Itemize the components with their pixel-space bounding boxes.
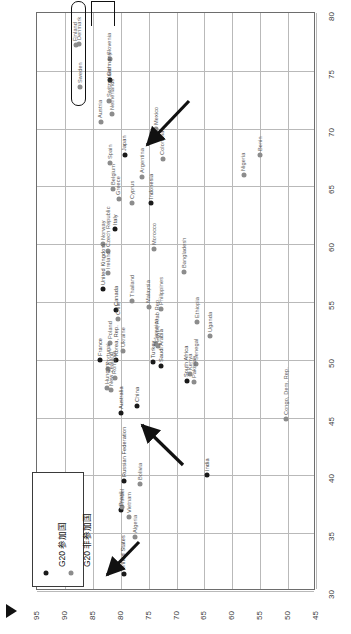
point-label: Netherlands (109, 78, 115, 109)
axis-tick-right: 35 (327, 532, 336, 541)
point-label: Thailand (129, 275, 135, 297)
data-point (241, 172, 246, 177)
gridline-horizontal (37, 186, 314, 187)
gridline-vertical (93, 13, 94, 589)
axis-tick-bottom: 90 (60, 611, 69, 620)
axis-tick-right: 80 (327, 12, 336, 21)
data-point (139, 175, 144, 180)
point-label: Pakistan (191, 356, 197, 378)
data-point (106, 271, 111, 276)
axis-tick-right: 70 (327, 128, 336, 137)
axis-tick-bottom: 65 (199, 611, 208, 620)
point-label: France (97, 338, 103, 356)
gridline-horizontal (37, 302, 314, 303)
gridline-horizontal (37, 244, 314, 245)
data-point (115, 317, 120, 322)
point-label: Ireland (105, 251, 111, 269)
axis-tick-right: 30 (327, 590, 336, 599)
gridline-horizontal (37, 360, 314, 361)
point-label: Ethiopia (194, 297, 200, 318)
data-point (109, 111, 114, 116)
data-point (108, 387, 113, 392)
point-label: Morocco (151, 223, 157, 245)
point-label: New Zealand (108, 352, 114, 386)
data-point (120, 348, 125, 353)
legend-marker-non-g20 (69, 571, 74, 576)
point-label: Cyprus (129, 180, 135, 198)
arrow-china-icon (129, 417, 189, 473)
axis-tick-bottom: 55 (255, 611, 264, 620)
point-label: India (204, 459, 210, 472)
point-label: Malaysia (145, 280, 151, 303)
axis-tick-right: 40 (327, 474, 336, 483)
data-point (149, 200, 154, 205)
point-label: Japan (121, 135, 127, 151)
axis-tick-bottom: 60 (227, 611, 236, 620)
axis-tick-bottom: 45 (311, 611, 320, 620)
data-point (192, 379, 197, 384)
point-label: China (134, 387, 140, 402)
gridline-vertical (232, 13, 233, 589)
axis-tick-right: 50 (327, 359, 336, 368)
axis-tick-right: 45 (327, 417, 336, 426)
axis-tick-bottom: 80 (116, 611, 125, 620)
axis-tick-right: 60 (327, 243, 336, 252)
legend-label-non-g20: G20 非参加国 (80, 513, 92, 567)
axis-tick-bottom: 70 (172, 611, 181, 620)
axis-tick-bottom: 50 (283, 611, 292, 620)
point-label: Poland (107, 320, 113, 338)
point-label: Czech Republic (105, 207, 111, 248)
data-point (98, 357, 103, 362)
gridline-horizontal (37, 591, 314, 592)
axis-tick-bottom: 95 (32, 611, 41, 620)
axis-tick-right: 55 (327, 301, 336, 310)
point-label: Vietnam (126, 492, 132, 513)
data-point (184, 378, 189, 383)
point-label: Slovenia (106, 33, 112, 55)
highlight-box-nordics (71, 1, 87, 106)
data-point (151, 360, 156, 365)
point-label: Turkey (150, 341, 156, 359)
data-point (159, 363, 164, 368)
chart-legend: G20 参加国 G20 非参加国 (32, 472, 84, 587)
data-point (208, 333, 213, 338)
axis-tick-bottom: 75 (144, 611, 153, 620)
data-point (122, 479, 127, 484)
axis-tick-right: 65 (327, 185, 336, 194)
data-point (138, 481, 143, 486)
data-point (258, 153, 263, 158)
data-point (152, 246, 157, 251)
point-label: Egypt, Arab Rep. (154, 298, 160, 342)
gridline-vertical (288, 13, 289, 589)
data-point (146, 304, 151, 309)
legend-marker-g20 (44, 571, 49, 576)
point-label: Benin (257, 136, 263, 151)
point-label: Greece (115, 176, 121, 195)
point-label: Spain (107, 144, 113, 159)
data-point (195, 319, 200, 324)
point-label: Nigeria (240, 152, 246, 170)
corner-triangle-icon (6, 604, 17, 618)
gridline-vertical (204, 13, 205, 589)
point-label: Italy (112, 214, 118, 225)
point-label: Russian Federation (121, 427, 127, 477)
data-point (284, 416, 289, 421)
arrow-united-states-icon (95, 537, 145, 587)
highlight-bracket (91, 1, 115, 26)
arrow-japan-icon (135, 95, 195, 157)
data-point (113, 227, 118, 232)
point-label: Austria (97, 100, 103, 118)
point-label: Ukraine (120, 327, 126, 347)
data-point (129, 200, 134, 205)
data-point (98, 119, 103, 124)
legend-label-g20: G20 参加国 (55, 522, 67, 567)
point-label: Israel (119, 488, 125, 502)
gridline-vertical (316, 13, 317, 589)
data-point (116, 197, 121, 202)
data-point (127, 515, 132, 520)
point-label: Australia (118, 386, 124, 409)
axis-tick-bottom: 85 (88, 611, 97, 620)
data-point (181, 269, 186, 274)
point-label: Indonesia (148, 173, 154, 198)
data-point (130, 298, 135, 303)
